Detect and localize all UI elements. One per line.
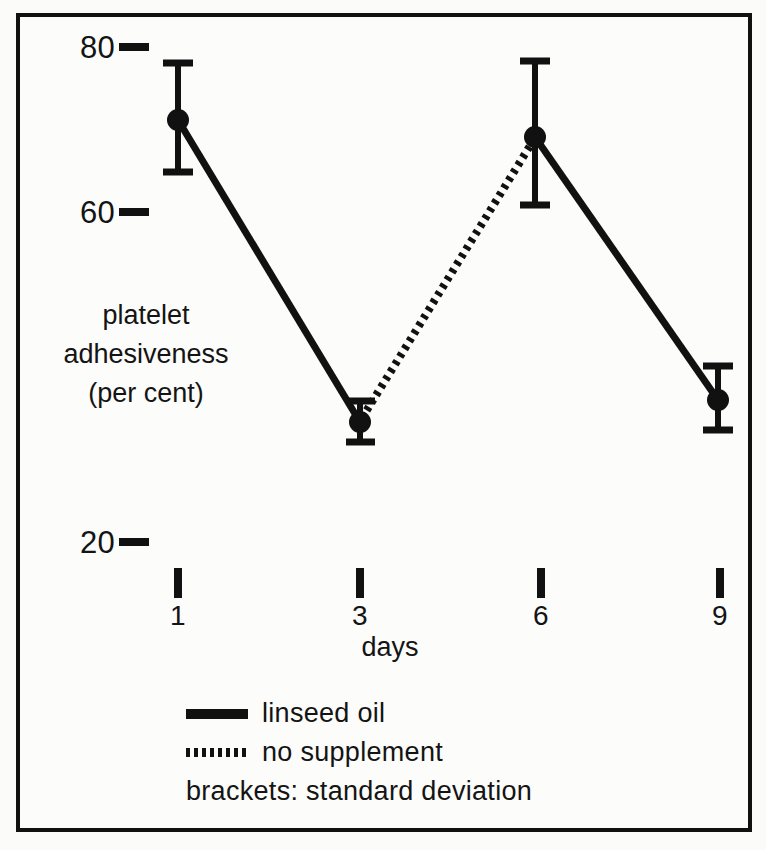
data-point-day-6 [524, 126, 546, 148]
data-point-day-1 [167, 109, 189, 131]
xtick-mark-6 [537, 568, 545, 598]
ytick-mark-80 [119, 43, 149, 51]
solid-line-swatch-icon [186, 709, 248, 719]
xtick-mark-3 [356, 568, 364, 598]
legend-entry-linseed-oil: linseed oil [186, 694, 616, 733]
legend-entry-note: brackets: standard deviation [186, 772, 616, 811]
legend-entry-no-supplement: no supplement [186, 733, 616, 772]
y-axis-label-line-2: adhesiveness [46, 335, 246, 374]
data-point-day-3 [349, 411, 371, 433]
xtick-label-1: 1 [148, 600, 208, 632]
xtick-label-9: 9 [690, 600, 750, 632]
chart-legend: linseed oil no supplement brackets: stan… [186, 694, 616, 811]
x-axis-label: days [330, 632, 450, 663]
dotted-line-swatch-icon [186, 748, 248, 757]
y-axis-label-line-3: (per cent) [46, 374, 246, 413]
chart-figure: 80 60 20 1 3 6 9 platelet adhesiveness (… [0, 0, 766, 850]
xtick-label-3: 3 [330, 600, 390, 632]
data-point-day-9 [707, 389, 729, 411]
series-no-supplement-segment-3-6 [362, 141, 533, 418]
legend-label-linseed-oil: linseed oil [262, 698, 385, 729]
xtick-mark-1 [174, 568, 182, 598]
ytick-label-80: 80 [51, 30, 115, 66]
series-linseed-oil-segment-6-9 [535, 137, 718, 400]
ytick-mark-20 [119, 538, 149, 546]
y-axis-label-line-1: platelet [46, 296, 246, 335]
y-axis-label: platelet adhesiveness (per cent) [46, 296, 246, 413]
legend-label-note: brackets: standard deviation [186, 776, 532, 807]
ytick-mark-60 [119, 208, 149, 216]
xtick-label-6: 6 [511, 600, 571, 632]
legend-label-no-supplement: no supplement [262, 737, 443, 768]
ytick-label-20: 20 [51, 525, 115, 561]
ytick-label-60: 60 [51, 195, 115, 231]
xtick-mark-9 [716, 568, 724, 598]
